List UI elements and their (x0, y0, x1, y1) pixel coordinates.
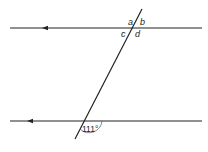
label-b: b (140, 17, 145, 27)
diagram-canvas: a b c d 111° (0, 0, 208, 152)
label-c: c (121, 29, 126, 39)
top-parallel-line (10, 26, 202, 30)
label-a: a (128, 17, 133, 27)
bottom-parallel-line (10, 119, 202, 123)
label-d: d (135, 29, 141, 39)
bottom-arrow-icon (27, 119, 33, 123)
angle-label-111: 111° (82, 124, 98, 134)
top-arrow-icon (42, 26, 48, 30)
